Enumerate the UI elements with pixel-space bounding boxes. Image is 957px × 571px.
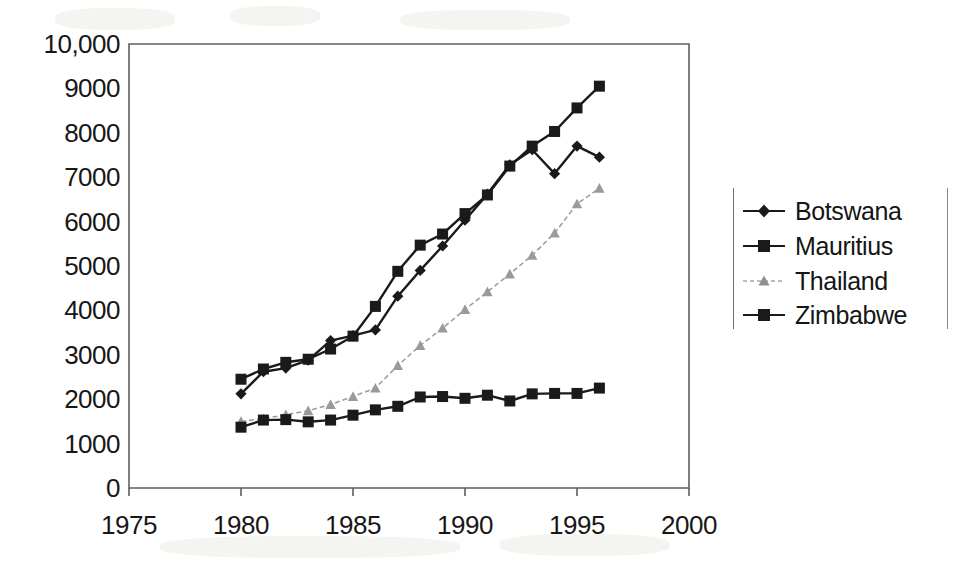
data-point-marker-square: [258, 364, 269, 375]
legend-marker-triangle-icon: [742, 271, 786, 291]
data-point-marker-square: [280, 357, 291, 368]
legend-label: Zimbabwe: [795, 303, 907, 328]
chart-figure: 10,0009000800070006000500040003000200010…: [0, 0, 957, 571]
data-point-marker-square: [348, 410, 359, 421]
data-point-marker-square: [572, 102, 583, 113]
data-point-marker-square: [594, 81, 605, 92]
data-point-marker-triangle: [460, 304, 470, 314]
data-point-marker-square: [572, 388, 583, 399]
data-point-marker-triangle: [527, 250, 537, 260]
legend-marker-square-icon: [742, 236, 786, 256]
data-point-marker-triangle: [572, 199, 582, 209]
data-point-marker-square: [392, 401, 403, 412]
data-point-marker-square: [280, 414, 291, 425]
data-point-marker-square: [348, 331, 359, 342]
data-point-marker-triangle: [549, 228, 559, 238]
legend-item-mauritius[interactable]: Mauritius: [742, 229, 893, 263]
data-point-marker-square: [303, 354, 314, 365]
data-point-marker-square: [504, 395, 515, 406]
series-zimbabwe: [236, 383, 605, 433]
data-point-marker-square: [303, 416, 314, 427]
legend-label: Mauritius: [795, 234, 893, 259]
data-point-marker-diamond: [594, 152, 605, 163]
data-point-marker-square: [437, 229, 448, 240]
x-axis-tick-marks: [129, 488, 689, 496]
data-point-marker-square: [527, 141, 538, 152]
legend: Botswana Mauritius Thailand: [733, 188, 948, 329]
data-point-marker-square: [415, 240, 426, 251]
legend-item-thailand[interactable]: Thailand: [742, 264, 888, 298]
data-point-marker-square: [482, 189, 493, 200]
data-point-marker-square: [258, 415, 269, 426]
data-point-marker-square: [504, 161, 515, 172]
data-point-marker-square: [392, 266, 403, 277]
data-point-marker-triangle: [325, 399, 335, 409]
legend-item-zimbabwe[interactable]: Zimbabwe: [742, 298, 907, 332]
data-point-marker-square: [460, 208, 471, 219]
data-point-marker-square: [415, 391, 426, 402]
data-point-marker-square: [325, 344, 336, 355]
legend-label: Thailand: [795, 269, 888, 294]
legend-marker-square-icon: [742, 305, 786, 325]
data-point-marker-square: [437, 391, 448, 402]
data-point-marker-square: [370, 404, 381, 415]
series-line: [241, 86, 599, 379]
data-point-marker-square: [370, 301, 381, 312]
plot-frame: [129, 44, 689, 488]
data-point-marker-square: [549, 388, 560, 399]
legend-item-botswana[interactable]: Botswana: [742, 194, 902, 228]
data-point-marker-square: [236, 374, 247, 385]
legend-label: Botswana: [795, 199, 902, 224]
data-point-marker-triangle: [594, 183, 604, 193]
data-point-marker-square: [236, 422, 247, 433]
legend-marker-diamond-icon: [742, 201, 786, 221]
data-point-marker-triangle: [348, 391, 358, 401]
data-series-layer: [235, 81, 605, 433]
data-point-marker-triangle: [415, 340, 425, 350]
data-point-marker-square: [527, 388, 538, 399]
data-point-marker-square: [460, 393, 471, 404]
data-point-marker-triangle: [303, 406, 313, 416]
series-line: [241, 188, 599, 421]
data-point-marker-square: [482, 390, 493, 401]
data-point-marker-square: [549, 126, 560, 137]
series-mauritius: [236, 81, 605, 385]
data-point-marker-square: [594, 383, 605, 394]
data-point-marker-square: [325, 415, 336, 426]
